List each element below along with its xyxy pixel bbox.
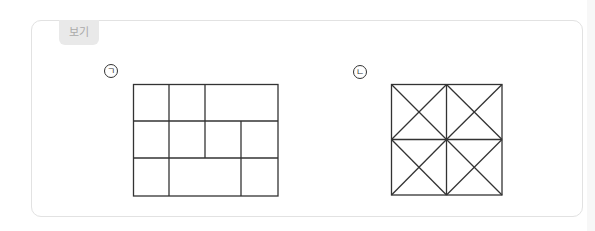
example-tab-label: 보기 [59,20,99,45]
figure-label-nieun: ㄴ [353,65,367,79]
figure-nieun-square-diagonals [391,84,503,196]
figure-label-giyeok: ㄱ [104,64,118,78]
page-edge-strip [587,0,595,231]
figure-giyeok-rectangle-grid [133,84,279,197]
